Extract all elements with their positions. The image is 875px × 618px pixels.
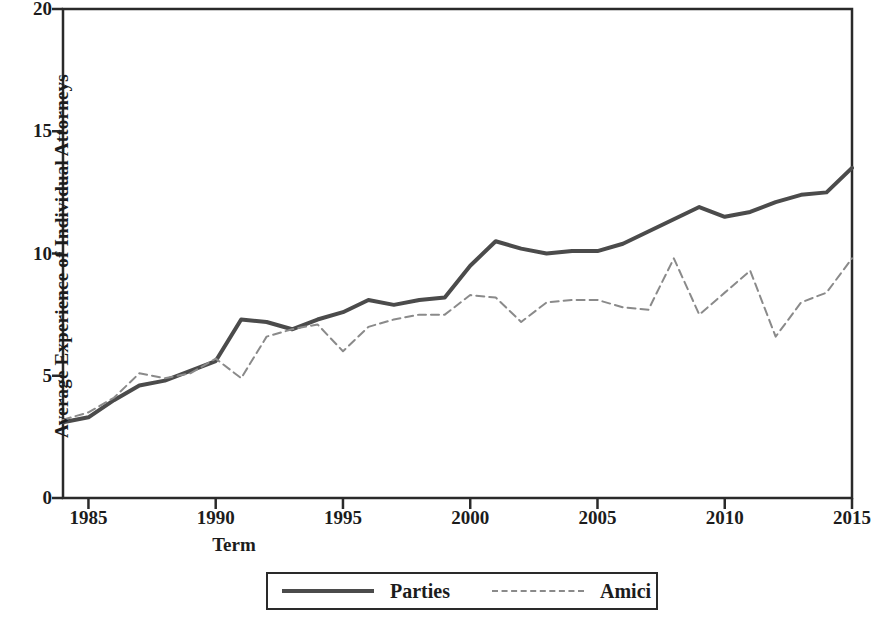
x-tick-label: 1990 — [181, 508, 251, 527]
legend-label-parties: Parties — [390, 580, 450, 603]
legend-swatch-solid-line-icon — [282, 584, 374, 598]
x-tick-label: 2010 — [690, 508, 760, 527]
legend-item-parties: Parties — [282, 574, 450, 608]
x-tick-label: 1995 — [308, 508, 378, 527]
x-tick-label: 2000 — [435, 508, 505, 527]
x-tick-label: 2015 — [817, 508, 875, 527]
x-axis-title: Term — [0, 534, 863, 556]
x-tick-label: 2005 — [562, 508, 632, 527]
x-tick-label: 1985 — [53, 508, 123, 527]
x-axis-title-text: Term — [212, 534, 256, 556]
legend-label-amici: Amici — [600, 580, 651, 603]
legend-swatch-dashed-line-icon — [492, 584, 584, 598]
legend-item-amici: Amici — [492, 574, 651, 608]
chart-legend: Parties Amici — [266, 572, 658, 610]
